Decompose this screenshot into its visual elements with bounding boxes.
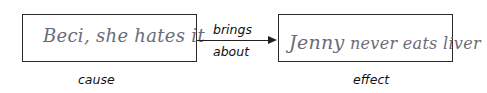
cause-handwritten-text: Beci, she hates it (43, 25, 205, 46)
cause-label: cause (78, 72, 115, 87)
brings-about-arrow (197, 40, 277, 42)
effect-box: Jenny never eats liver (278, 14, 453, 62)
arrow-head-icon (268, 36, 277, 44)
cause-box: Beci, she hates it (22, 14, 197, 62)
arrow-line (197, 40, 269, 42)
arrow-label-bottom: about (213, 44, 249, 59)
effect-text-name: Jenny (289, 31, 345, 53)
effect-text-rest: never eats liver (350, 34, 481, 53)
effect-label: effect (353, 72, 389, 87)
effect-handwritten-text: Jenny never eats liver (289, 31, 481, 53)
arrow-label-top: brings (213, 22, 252, 37)
